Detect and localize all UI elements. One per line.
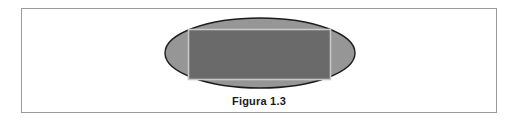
figure-container: Figura 1.3 xyxy=(0,0,518,124)
rectangle-shape xyxy=(189,30,331,80)
figure-caption: Figura 1.3 xyxy=(0,95,518,108)
